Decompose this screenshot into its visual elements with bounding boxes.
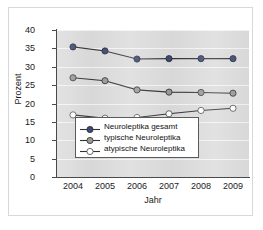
legend-label: typische Neuroleptika (104, 132, 180, 143)
chart-figure-card: 0510152025303540 Prozent 200420052006200… (8, 7, 253, 216)
data-point (166, 89, 172, 95)
x-axis-tick-label: 2006 (120, 181, 154, 191)
y-axis-tick-label: 40 (11, 26, 35, 35)
legend-item: Neuroleptika gesamt (79, 121, 194, 132)
data-point (70, 44, 76, 50)
data-point (134, 56, 140, 62)
data-point (102, 78, 108, 84)
data-point (198, 56, 204, 62)
legend-label: Neuroleptika gesamt (104, 121, 177, 132)
y-axis-tick (52, 48, 56, 49)
x-axis-tick-label: 2008 (184, 181, 218, 191)
legend-marker-icon (79, 121, 101, 132)
y-axis-tick (52, 177, 56, 178)
chart-legend: Neuroleptika gesamttypische Neuroleptika… (75, 117, 199, 158)
data-point (134, 87, 140, 93)
y-axis-tick (52, 159, 56, 160)
y-axis-tick (52, 104, 56, 105)
series-line (73, 78, 233, 93)
data-point (102, 48, 108, 54)
data-point (230, 105, 236, 111)
data-point (166, 111, 172, 117)
data-point (70, 75, 76, 81)
y-axis-tick (52, 85, 56, 86)
legend-marker-icon (79, 132, 101, 143)
x-axis-title: Jahr (57, 195, 249, 205)
x-axis-tick-label: 2009 (216, 181, 250, 191)
y-axis-title: Prozent (13, 49, 23, 129)
legend-item: atypische Neuroleptika (79, 143, 194, 154)
x-axis-tick-label: 2007 (152, 181, 186, 191)
data-point (230, 90, 236, 96)
x-axis-tick-label: 2004 (56, 181, 90, 191)
y-axis-tick (52, 30, 56, 31)
legend-marker-icon (79, 143, 101, 154)
legend-item: typische Neuroleptika (79, 132, 194, 143)
y-axis-tick-label: 0 (11, 173, 35, 182)
y-axis-tick (52, 67, 56, 68)
data-point (166, 56, 172, 62)
y-axis-tick (52, 140, 56, 141)
x-axis-line (56, 177, 250, 178)
legend-label: atypische Neuroleptika (104, 143, 185, 154)
series-line (73, 47, 233, 59)
data-point (230, 56, 236, 62)
data-point (198, 107, 204, 113)
y-axis-tick-label: 10 (11, 136, 35, 145)
data-point (198, 89, 204, 95)
y-axis-tick (52, 122, 56, 123)
y-axis-tick-label: 5 (11, 155, 35, 164)
x-axis-tick-label: 2005 (88, 181, 122, 191)
